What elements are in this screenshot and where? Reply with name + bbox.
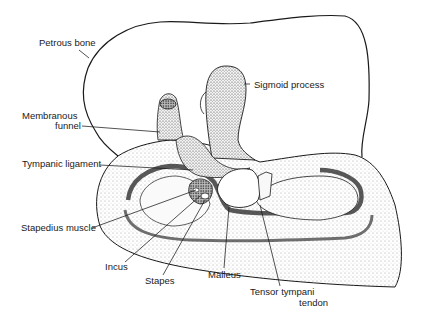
label-stapes: Stapes: [145, 276, 175, 286]
middle-ear-diagram: Petrous bone Sigmoid process Membranous …: [0, 0, 421, 325]
label-stapedius-muscle: Stapedius muscle: [21, 223, 96, 233]
label-tympanic-ligament: Tympanic ligament: [22, 159, 101, 169]
label-petrous-bone: Petrous bone: [39, 38, 96, 48]
label-membranous-funnel-line2: funnel: [55, 121, 81, 131]
label-tensor-tympani-line1: Tensor tympani: [250, 287, 314, 297]
label-incus: Incus: [105, 262, 128, 272]
label-sigmoid-process: Sigmoid process: [254, 80, 324, 90]
label-malleus: Malleus: [208, 270, 241, 280]
sigmoid-process: [206, 66, 255, 160]
label-tensor-tympani-line2: tendon: [299, 298, 328, 308]
